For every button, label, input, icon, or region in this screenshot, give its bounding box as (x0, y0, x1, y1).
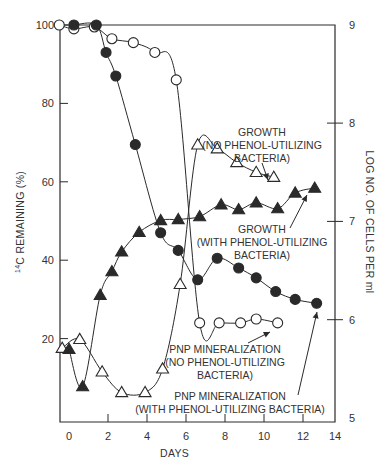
data-point (128, 38, 138, 48)
data-point (214, 318, 224, 328)
data-point (54, 20, 64, 30)
y-tick-label-left: 80 (42, 97, 54, 109)
data-point (215, 199, 227, 209)
y-tick-label-right: 9 (349, 19, 355, 31)
data-point (195, 318, 205, 328)
y-tick-label-right: 5 (349, 412, 355, 424)
data-point (139, 386, 151, 396)
data-point (106, 266, 118, 276)
y-tick-label-right: 7 (349, 215, 355, 227)
x-tick-label: 4 (144, 430, 150, 442)
x-tick-label: 14 (329, 430, 341, 442)
data-point (173, 245, 183, 255)
data-point (94, 289, 106, 299)
y-tick-label-right: 6 (349, 314, 355, 326)
data-point (271, 287, 281, 297)
data-point (96, 366, 108, 376)
x-tick-label: 0 (66, 430, 72, 442)
data-point (116, 386, 128, 396)
data-point (130, 140, 140, 150)
y-tick-label-left: 40 (42, 254, 54, 266)
data-point (156, 228, 166, 238)
x-tick-label: 2 (105, 430, 111, 442)
data-point (272, 203, 284, 213)
y-tick-label-left: 60 (42, 176, 54, 188)
x-axis-label: DAYS (160, 447, 189, 459)
curve-annotation: PNP MINERALIZATION(WITH PHENOL-UTILIZING… (135, 390, 325, 415)
data-point (312, 298, 322, 308)
data-point (250, 197, 262, 207)
data-point (111, 71, 121, 81)
data-point (212, 253, 222, 263)
data-point (133, 226, 145, 236)
data-point (171, 75, 181, 85)
x-tick-label: 10 (258, 430, 270, 442)
x-tick-label: 8 (222, 430, 228, 442)
series-line (59, 25, 277, 341)
data-point (273, 318, 283, 328)
data-point (116, 246, 128, 256)
data-point (309, 182, 321, 192)
data-point (194, 210, 206, 220)
curve-annotation: PNP MINERALIZATION(NO PHENOL-UTILIZINGBA… (165, 343, 285, 381)
data-point (107, 34, 117, 44)
data-point (150, 47, 160, 57)
data-point (251, 273, 261, 283)
data-point (193, 275, 203, 285)
data-point (250, 166, 262, 176)
axes: 024681012142040608010056789 (36, 19, 355, 442)
data-point (234, 263, 244, 273)
y-axis-label-right: LOG NO. OF CELLS PER ml (364, 151, 376, 294)
x-tick-label: 6 (183, 430, 189, 442)
data-point (289, 187, 301, 197)
data-point (172, 213, 184, 223)
curve-annotation: GROWTH(NO PHENOL-UTILIZINGBACTERIA) (202, 126, 322, 164)
x-tick-label: 12 (297, 430, 309, 442)
y-tick-label-left: 100 (36, 19, 54, 31)
y-tick-label-left: 20 (42, 333, 54, 345)
data-point (69, 20, 79, 30)
data-point (290, 294, 300, 304)
data-point (251, 314, 261, 324)
y-axis-label-left: 14C REMAINING (%) (14, 171, 26, 273)
data-point (236, 318, 246, 328)
data-point (101, 47, 111, 57)
data-point (91, 20, 101, 30)
y-tick-label-right: 8 (349, 117, 355, 129)
arrowhead-icon (263, 173, 269, 180)
chart-canvas: 024681012142040608010056789 GROWTH(NO PH… (0, 0, 390, 474)
data-point (174, 278, 186, 288)
data-markers (54, 20, 321, 397)
chart-figure: 024681012142040608010056789 GROWTH(NO PH… (0, 0, 390, 474)
annotation-arrow (298, 312, 317, 395)
arrowhead-icon (313, 312, 319, 319)
